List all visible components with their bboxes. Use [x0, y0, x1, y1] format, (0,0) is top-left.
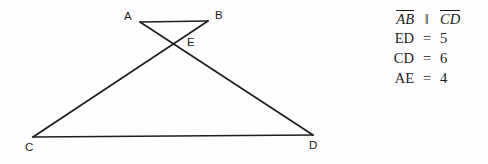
fact-row-parallel: AB ‖ CD: [376, 10, 480, 30]
fact-value-ed: 5: [440, 30, 474, 47]
fact-row-ed: ED = 5: [376, 30, 480, 50]
vertex-label-E: E: [187, 37, 195, 49]
fact-value-ae: 4: [440, 70, 474, 87]
fact-value-cd: 6: [440, 50, 474, 67]
segment-AD: [140, 22, 313, 135]
fact-label-ed: ED: [376, 30, 414, 47]
segment-notation-cd: CD: [440, 10, 460, 27]
fact-equals-ae: =: [414, 70, 440, 87]
segment-CD: [33, 135, 313, 137]
vertex-label-B: B: [215, 10, 223, 22]
fact-row-ae: AE = 4: [376, 70, 480, 90]
fact-label-ae: AE: [376, 70, 414, 87]
segment-AB: [140, 21, 208, 22]
fact-equals-ed: =: [414, 30, 440, 47]
fact-equals-cd: =: [414, 50, 440, 67]
parallel-symbol: ‖: [414, 11, 440, 28]
vertex-label-D: D: [309, 140, 317, 152]
geometry-svg: [0, 0, 340, 164]
vertex-label-A: A: [124, 11, 132, 23]
fact-row-cd: CD = 6: [376, 50, 480, 70]
vertex-label-C: C: [25, 142, 33, 154]
geometry-figure: A B E C D: [0, 0, 340, 164]
given-facts-list: AB ‖ CD ED = 5 CD = 6 AE = 4: [376, 10, 480, 90]
diagram-canvas: A B E C D AB ‖ CD ED = 5 CD = 6 AE =: [0, 0, 488, 164]
segment-BC: [33, 21, 208, 137]
fact-label-cd: CD: [376, 50, 414, 67]
segment-notation-ab: AB: [396, 10, 414, 27]
